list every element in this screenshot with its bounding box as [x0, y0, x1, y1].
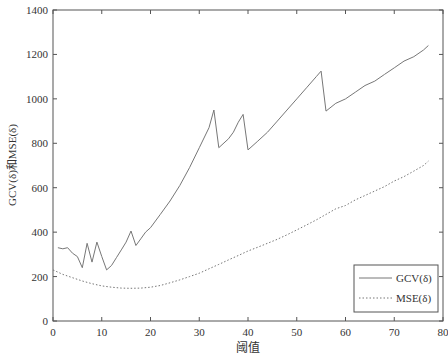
y-axis-label: GCV(δ)和MSE(δ): [6, 124, 19, 206]
x-tick-label: 70: [389, 326, 401, 338]
legend: GCV(δ) MSE(δ): [354, 265, 438, 312]
x-tick-label: 60: [340, 326, 352, 338]
legend-mse-label: MSE(δ): [396, 292, 431, 305]
series-lines: [53, 46, 428, 289]
y-tick-label: 1400: [26, 4, 49, 16]
y-tick-label: 1000: [26, 93, 49, 105]
x-tick-label: 50: [291, 326, 303, 338]
x-tick-label: 80: [438, 326, 448, 338]
y-tick-label: 1200: [26, 48, 49, 60]
legend-gcv-label: GCV(δ): [396, 272, 432, 285]
y-tick-label: 200: [32, 271, 49, 283]
chart-canvas: 01020304050607080 0200400600800100012001…: [0, 0, 448, 358]
x-tick-label: 40: [243, 326, 255, 338]
x-tick-label: 0: [50, 326, 56, 338]
y-tick-label: 400: [32, 226, 49, 238]
y-tick-label: 600: [32, 182, 49, 194]
y-tick-label: 800: [32, 137, 49, 149]
y-tick-label: 0: [43, 315, 49, 327]
x-tick-label: 30: [194, 326, 206, 338]
x-tick-label: 20: [145, 326, 157, 338]
x-tick-label: 10: [96, 326, 108, 338]
gcv-line: [58, 46, 429, 270]
x-axis-label: 阈值: [236, 340, 260, 355]
